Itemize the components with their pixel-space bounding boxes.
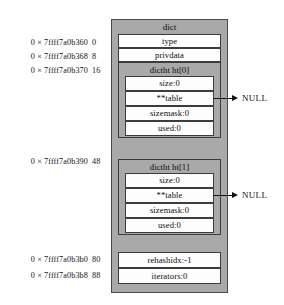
arrow-head-icon bbox=[232, 95, 238, 101]
dictht-ht0-title: dictht ht[0] bbox=[119, 65, 220, 75]
address-label-3: 0 × 7ffff7a0b39048 bbox=[8, 158, 103, 166]
ht0-field-size: size:0 bbox=[125, 76, 214, 91]
address-label-4: 0 × 7ffff7a0b3b080 bbox=[8, 256, 103, 264]
address-label-0: 0 × 7ffff7a0b3600 bbox=[8, 39, 103, 47]
arrow-shaft bbox=[214, 195, 233, 196]
address-offset: 48 bbox=[92, 158, 103, 166]
field-iterators: iterators:0 bbox=[118, 268, 221, 284]
ht1-field-table: **table bbox=[125, 188, 214, 203]
ht0-null-label: NULL bbox=[242, 94, 267, 103]
ht0-field-sizemask: sizemask:0 bbox=[125, 106, 214, 121]
field-rehashidx: rehashidx:-1 bbox=[118, 252, 221, 268]
address-offset: 88 bbox=[92, 272, 103, 280]
address-offset: 8 bbox=[92, 53, 103, 61]
address-hex: 0 × 7ffff7a0b368 bbox=[31, 52, 88, 61]
dict-struct-diagram: 0 × 7ffff7a0b3600 0 × 7ffff7a0b3688 0 × … bbox=[0, 0, 284, 305]
ht0-field-used: used:0 bbox=[125, 121, 214, 136]
field-type: type bbox=[118, 34, 221, 48]
address-hex: 0 × 7ffff7a0b3b0 bbox=[31, 255, 88, 264]
address-label-1: 0 × 7ffff7a0b3688 bbox=[8, 53, 103, 61]
address-hex: 0 × 7ffff7a0b3b8 bbox=[31, 271, 88, 280]
address-label-5: 0 × 7ffff7a0b3b888 bbox=[8, 272, 103, 280]
field-privdata: privdata bbox=[118, 48, 221, 62]
address-label-2: 0 × 7ffff7a0b37016 bbox=[8, 67, 103, 75]
ht1-null-label: NULL bbox=[242, 191, 267, 200]
dict-struct-title: dict bbox=[112, 22, 227, 33]
ht1-table-null-arrow bbox=[214, 191, 238, 200]
address-hex: 0 × 7ffff7a0b390 bbox=[31, 157, 88, 166]
dictht-ht1-title: dictht ht[1] bbox=[119, 162, 220, 172]
ht0-table-null-arrow bbox=[214, 94, 238, 103]
address-hex: 0 × 7ffff7a0b360 bbox=[31, 38, 88, 47]
ht1-field-sizemask: sizemask:0 bbox=[125, 203, 214, 218]
address-offset: 16 bbox=[92, 67, 103, 75]
ht1-field-size: size:0 bbox=[125, 173, 214, 188]
arrow-shaft bbox=[214, 98, 233, 99]
arrow-head-icon bbox=[232, 192, 238, 198]
address-offset: 0 bbox=[92, 39, 103, 47]
address-hex: 0 × 7ffff7a0b370 bbox=[31, 66, 88, 75]
ht0-field-table: **table bbox=[125, 91, 214, 106]
address-offset: 80 bbox=[92, 256, 103, 264]
ht1-field-used: used:0 bbox=[125, 218, 214, 233]
